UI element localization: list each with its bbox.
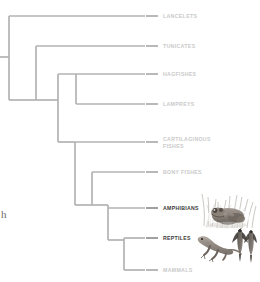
tip-label-lancelets: LANCELETS [163,13,197,19]
edge-text-fragment: h [1,208,7,220]
tip-label-cartilaginous-fishes: CARTILAGINOUS FISHES [163,136,211,149]
tip-label-amphibians: AMPHIBIANS [163,205,199,211]
tip-label-bony-fishes: BONY FISHES [163,169,202,175]
tip-label-tunicates: TUNICATES [163,43,195,49]
tip-label-mammals: MAMMALS [163,267,193,273]
tip-tick-lancelets [146,15,158,17]
tip-tick-amphibians [146,207,158,209]
tip-label-hagfishes: HAGFISHES [163,71,196,77]
tip-tick-lampreys [146,103,158,105]
tip-tick-tunicates [146,45,158,47]
tip-tick-reptiles [146,237,158,239]
tip-label-lampreys: LAMPREYS [163,101,195,107]
tip-tick-mammals [146,269,158,271]
tip-tick-bony-fishes [146,171,158,173]
tip-label-reptiles: REPTILES [163,235,191,241]
phylogenetic-tree-figure: LANCELETSTUNICATESHAGFISHESLAMPREYSCARTI… [0,0,260,282]
tree-branch-diagram [0,0,260,282]
tip-tick-cartilaginous-fishes [146,141,158,143]
tip-tick-hagfishes [146,73,158,75]
